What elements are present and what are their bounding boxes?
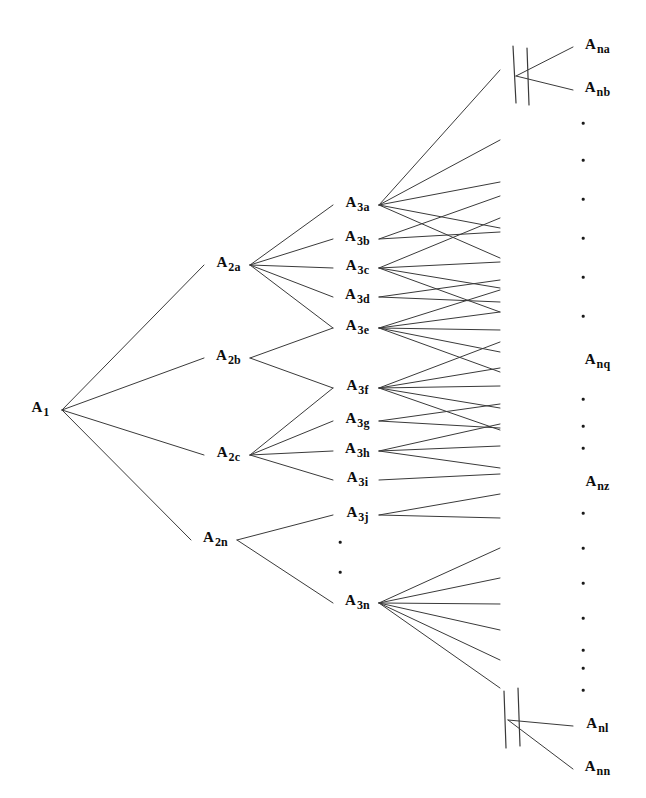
- node-base-letter: A: [585, 758, 596, 774]
- node-base-letter: A: [346, 377, 357, 393]
- node-label-a3f[interactable]: A3f: [346, 377, 367, 393]
- node-subscript: 3h: [357, 446, 370, 460]
- node-label-a3b[interactable]: A3b: [345, 228, 369, 244]
- node-label-anz[interactable]: Anz: [585, 473, 608, 489]
- node-base-letter: A: [345, 286, 356, 302]
- fan-A3d-1: [379, 297, 500, 302]
- node-label-anq[interactable]: Anq: [585, 351, 610, 367]
- fan-A3b-0: [379, 196, 500, 239]
- fan-A3c-2: [379, 268, 500, 288]
- node-subscript: 3g: [357, 416, 369, 430]
- tree-diagram-canvas: A1A2aA2bA2cA2nA3aA3bA3cA3dA3eA3fA3gA3hA3…: [0, 0, 646, 798]
- node-subscript: 1: [43, 405, 49, 419]
- fan-A3a-0: [379, 70, 500, 205]
- node-label-a3e[interactable]: A3e: [346, 317, 369, 333]
- fan-A3e-2: [379, 328, 500, 330]
- node-subscript: 3d: [357, 292, 370, 306]
- terminal-edge-Anl-2: [508, 720, 573, 726]
- node-label-anl[interactable]: Anl: [586, 715, 607, 731]
- node-label-a3i[interactable]: A3i: [347, 469, 368, 485]
- node-subscript: 3n: [357, 598, 370, 612]
- node-label-a3n[interactable]: A3n: [345, 592, 369, 608]
- fan-A3a-3: [379, 205, 500, 228]
- edge-A2n-A3n: [237, 540, 333, 603]
- node-base-letter: A: [347, 469, 358, 485]
- edge-A2c-A3h: [250, 451, 333, 455]
- node-subscript: nq: [597, 357, 611, 371]
- right-column-ellipsis-dot-10: [582, 547, 585, 550]
- node-subscript: 3b: [357, 234, 370, 248]
- node-subscript: na: [597, 42, 610, 56]
- node-subscript: 3j: [358, 510, 368, 524]
- node-base-letter: A: [585, 473, 596, 489]
- node-base-letter: A: [345, 228, 356, 244]
- edge-A2a-A3c: [250, 265, 333, 268]
- top-break-right: [527, 48, 529, 105]
- node-label-ann[interactable]: Ann: [585, 758, 610, 774]
- node-subscript: 3c: [358, 263, 370, 277]
- terminal-edge-Anb-1: [516, 76, 573, 90]
- node-label-a3g[interactable]: A3g: [345, 410, 368, 426]
- right-column-ellipsis-dot-15: [582, 689, 585, 692]
- node-base-letter: A: [346, 257, 357, 273]
- node-subscript: 2b: [228, 353, 241, 367]
- fan-A3e-3: [379, 328, 500, 352]
- fan-A3c-0: [379, 218, 500, 268]
- right-column-ellipsis-dot-0: [582, 122, 585, 125]
- right-column-ellipsis-dot-9: [582, 512, 585, 515]
- edge-A2a-A3e: [250, 265, 333, 328]
- right-column-ellipsis-dot-4: [582, 276, 585, 279]
- fan-A3h-0: [379, 424, 500, 451]
- level3-ellipsis-dot-1: [339, 571, 342, 574]
- node-base-letter: A: [216, 254, 227, 270]
- node-label-ana[interactable]: Ana: [585, 36, 609, 52]
- right-column-ellipsis-dot-2: [582, 198, 585, 201]
- edge-A1-A2a: [62, 265, 204, 410]
- right-column-ellipsis-dot-1: [582, 159, 585, 162]
- node-base-letter: A: [345, 440, 356, 456]
- node-subscript: 3f: [358, 383, 368, 397]
- node-label-a3c[interactable]: A3c: [346, 257, 369, 273]
- node-label-a2a[interactable]: A2a: [216, 254, 239, 270]
- fan-A3c-3: [379, 268, 500, 312]
- fan-A3j-1: [379, 515, 500, 518]
- node-base-letter: A: [217, 444, 228, 460]
- node-base-letter: A: [203, 529, 214, 545]
- node-label-a2b[interactable]: A2b: [216, 347, 240, 363]
- right-column-ellipsis-dot-3: [582, 237, 585, 240]
- node-base-letter: A: [31, 399, 42, 415]
- node-base-letter: A: [345, 410, 356, 426]
- edge-A2c-A3i: [250, 455, 333, 480]
- edge-A1-A2n: [62, 410, 191, 540]
- node-subscript: nl: [598, 721, 608, 735]
- node-label-a3j[interactable]: A3j: [346, 504, 367, 520]
- right-column-ellipsis-dot-14: [582, 667, 585, 670]
- node-label-a2n[interactable]: A2n: [203, 529, 227, 545]
- fan-A3n-2: [379, 603, 500, 604]
- edge-A2a-A3a: [250, 205, 333, 265]
- node-subscript: nb: [597, 85, 611, 99]
- edge-A2a-A3d: [250, 265, 333, 297]
- node-label-a3d[interactable]: A3d: [345, 286, 369, 302]
- tree-edges-layer: [0, 0, 646, 798]
- node-subscript: 3a: [357, 200, 369, 214]
- fan-A3a-2: [379, 182, 500, 205]
- fan-A3c-1: [379, 262, 500, 268]
- right-column-ellipsis-dot-13: [582, 649, 585, 652]
- level3-ellipsis-dot-0: [339, 541, 342, 544]
- node-label-a3a[interactable]: A3a: [345, 194, 368, 210]
- fan-A3f-3: [379, 388, 500, 408]
- node-base-letter: A: [585, 351, 596, 367]
- node-label-a3h[interactable]: A3h: [345, 440, 369, 456]
- node-label-a2c[interactable]: A2c: [217, 444, 240, 460]
- fan-A3b-1: [379, 232, 500, 239]
- edge-A2c-A3g: [250, 421, 333, 455]
- edge-A2n-A3j: [237, 515, 333, 540]
- edge-A2a-A3b: [250, 239, 333, 265]
- node-label-anb[interactable]: Anb: [585, 79, 610, 95]
- right-column-ellipsis-dot-8: [582, 447, 585, 450]
- fan-A3i-0: [379, 474, 500, 480]
- fan-A3f-2: [379, 386, 500, 388]
- node-label-a1[interactable]: A1: [31, 399, 48, 415]
- right-column-ellipsis-dot-12: [582, 617, 585, 620]
